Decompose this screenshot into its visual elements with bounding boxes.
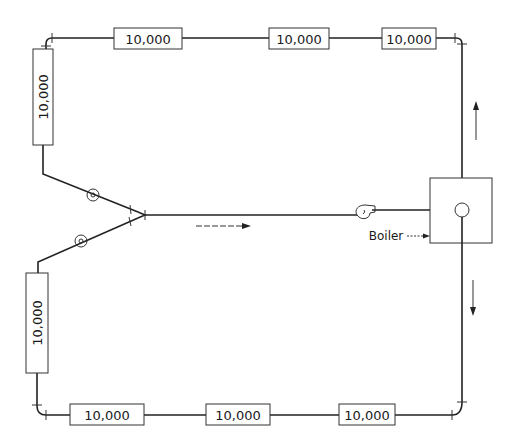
pump-icon xyxy=(356,205,375,219)
top-load-1: 10,000 xyxy=(114,28,182,49)
left-upper-load: 10,000 xyxy=(33,49,53,145)
bottom-load-2-label: 10,000 xyxy=(215,408,261,423)
top-load-2: 10,000 xyxy=(269,28,329,49)
main-return-pipe xyxy=(138,210,430,220)
boiler-pointer-arrow-icon xyxy=(423,234,430,239)
top-supply-pipe xyxy=(41,33,467,200)
bottom-load-1-label: 10,000 xyxy=(84,408,130,423)
bottom-load-2: 10,000 xyxy=(206,404,270,425)
flow-arrow-up-icon xyxy=(473,101,479,140)
left-upper-load-label: 10,000 xyxy=(36,74,51,120)
boiler-label: Boiler xyxy=(369,229,404,243)
top-load-1-label: 10,000 xyxy=(125,32,171,47)
left-lower-load: 10,000 xyxy=(26,273,48,373)
bottom-load-3: 10,000 xyxy=(339,404,395,425)
top-load-3-label: 10,000 xyxy=(386,32,432,47)
top-load-3: 10,000 xyxy=(382,28,436,49)
bottom-load-1: 10,000 xyxy=(70,404,144,425)
lower-branch-pipe xyxy=(38,217,138,273)
flow-arrow-down-icon xyxy=(470,280,476,316)
top-load-2-label: 10,000 xyxy=(276,32,322,47)
heating-loop-diagram: 10,000 10,000 10,000 10,000 xyxy=(0,0,518,444)
bottom-load-3-label: 10,000 xyxy=(344,408,390,423)
upper-branch-pipe xyxy=(43,145,138,214)
right-riser-pipe xyxy=(452,217,467,420)
flow-arrow-right-icon xyxy=(196,223,251,229)
left-lower-load-label: 10,000 xyxy=(30,300,45,346)
